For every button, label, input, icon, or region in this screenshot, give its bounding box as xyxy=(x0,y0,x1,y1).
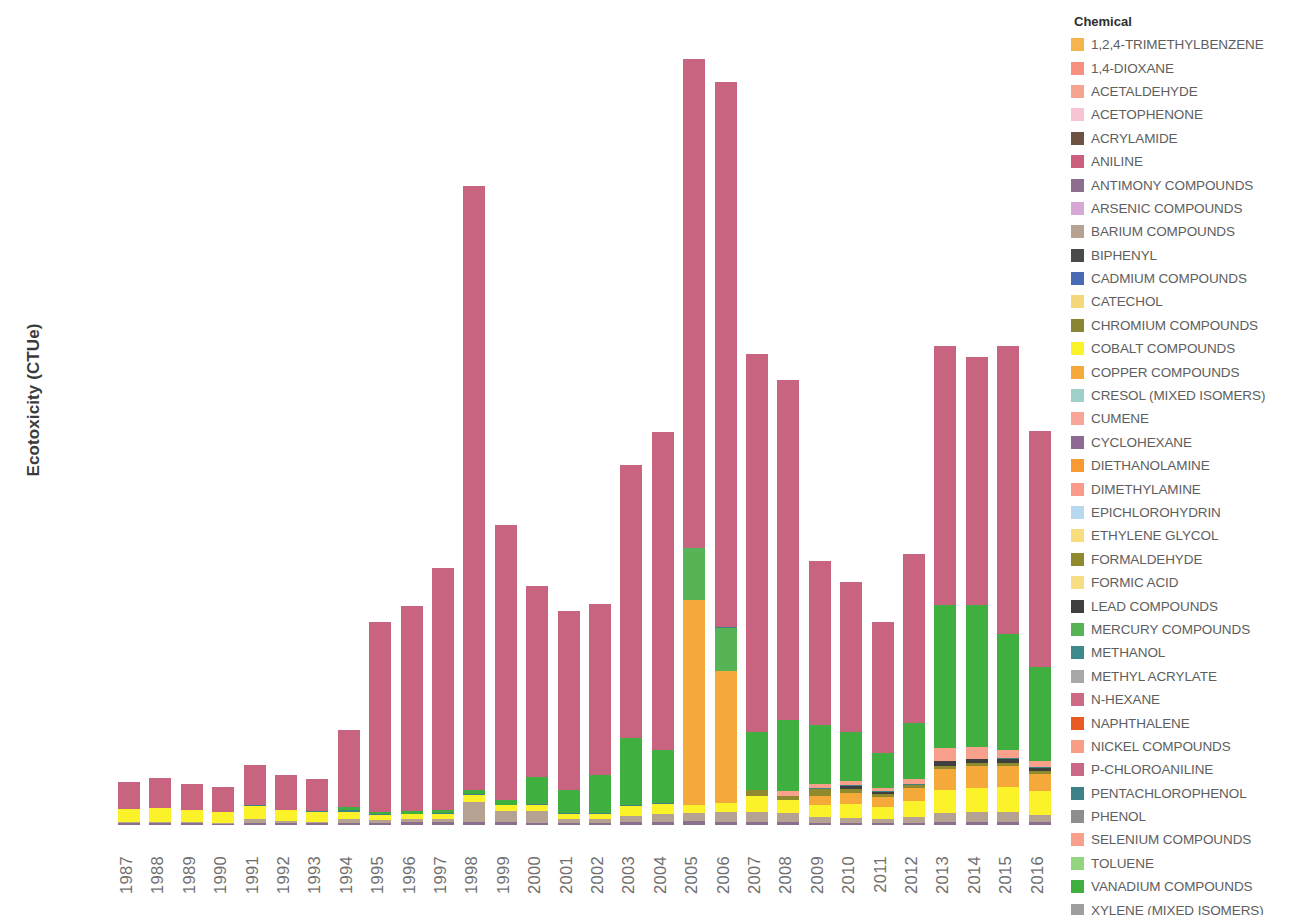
bar-segment[interactable] xyxy=(1029,791,1051,814)
bar-1991[interactable] xyxy=(244,765,266,825)
bar-segment[interactable] xyxy=(777,720,799,790)
bar-2012[interactable] xyxy=(903,554,925,825)
bar-2011[interactable] xyxy=(872,622,894,825)
bar-segment[interactable] xyxy=(589,775,611,813)
bar-segment[interactable] xyxy=(526,777,548,804)
legend-item[interactable]: ACETALDEHYDE xyxy=(1071,80,1304,103)
bar-segment[interactable] xyxy=(275,823,297,825)
bar-2008[interactable] xyxy=(777,380,799,825)
legend-item[interactable]: CUMENE xyxy=(1071,407,1304,430)
bar-segment[interactable] xyxy=(558,611,580,789)
legend-item[interactable]: ACETOPHENONE xyxy=(1071,103,1304,126)
bar-segment[interactable] xyxy=(683,821,705,825)
bar-segment[interactable] xyxy=(652,814,674,822)
bar-1992[interactable] xyxy=(275,775,297,825)
bar-segment[interactable] xyxy=(589,823,611,825)
bar-segment[interactable] xyxy=(683,548,705,599)
bar-segment[interactable] xyxy=(997,822,1019,825)
bar-segment[interactable] xyxy=(715,803,737,812)
bar-segment[interactable] xyxy=(809,789,831,797)
bar-2010[interactable] xyxy=(840,582,862,825)
bar-segment[interactable] xyxy=(809,561,831,725)
bar-segment[interactable] xyxy=(872,797,894,807)
bar-segment[interactable] xyxy=(1029,822,1051,825)
bar-segment[interactable] xyxy=(840,582,862,732)
bar-segment[interactable] xyxy=(809,796,831,805)
legend-item[interactable]: NAPHTHALENE xyxy=(1071,711,1304,734)
bar-segment[interactable] xyxy=(463,186,485,790)
legend-item[interactable]: METHYL ACRYLATE xyxy=(1071,665,1304,688)
legend-item[interactable]: CRESOL (MIXED ISOMERS) xyxy=(1071,384,1304,407)
legend-item[interactable]: N-HEXANE xyxy=(1071,688,1304,711)
bar-2009[interactable] xyxy=(809,561,831,825)
bar-segment[interactable] xyxy=(118,809,140,822)
bar-segment[interactable] xyxy=(620,806,642,816)
bar-segment[interactable] xyxy=(306,812,328,822)
bar-segment[interactable] xyxy=(840,823,862,825)
bar-segment[interactable] xyxy=(966,357,988,605)
bar-segment[interactable] xyxy=(212,812,234,822)
legend-item[interactable]: LEAD COMPOUNDS xyxy=(1071,594,1304,617)
legend-item[interactable]: SELENIUM COMPOUNDS xyxy=(1071,828,1304,851)
legend-item[interactable]: ARSENIC COMPOUNDS xyxy=(1071,197,1304,220)
bar-segment[interactable] xyxy=(306,823,328,825)
legend-item[interactable]: ACRYLAMIDE xyxy=(1071,127,1304,150)
bar-segment[interactable] xyxy=(118,782,140,810)
legend-item[interactable]: XYLENE (MIXED ISOMERS) xyxy=(1071,898,1304,915)
bar-2014[interactable] xyxy=(966,357,988,825)
bar-segment[interactable] xyxy=(338,730,360,807)
bar-1996[interactable] xyxy=(401,606,423,825)
bar-segment[interactable] xyxy=(620,465,642,738)
bar-segment[interactable] xyxy=(401,606,423,812)
legend-item[interactable]: VANADIUM COMPOUNDS xyxy=(1071,875,1304,898)
bar-segment[interactable] xyxy=(683,59,705,548)
bar-segment[interactable] xyxy=(526,586,548,778)
bar-segment[interactable] xyxy=(966,747,988,759)
legend-item[interactable]: NICKEL COMPOUNDS xyxy=(1071,735,1304,758)
bar-segment[interactable] xyxy=(997,787,1019,812)
bar-segment[interactable] xyxy=(872,753,894,788)
bar-2004[interactable] xyxy=(652,432,674,825)
bar-2000[interactable] xyxy=(526,586,548,825)
bar-segment[interactable] xyxy=(683,813,705,821)
bar-segment[interactable] xyxy=(809,725,831,784)
bar-segment[interactable] xyxy=(463,822,485,825)
bar-2003[interactable] xyxy=(620,465,642,825)
bar-segment[interactable] xyxy=(966,822,988,825)
bar-segment[interactable] xyxy=(181,823,203,825)
bar-segment[interactable] xyxy=(715,82,737,627)
bar-segment[interactable] xyxy=(715,822,737,826)
bar-segment[interactable] xyxy=(526,811,548,823)
bar-segment[interactable] xyxy=(181,784,203,810)
legend-item[interactable]: COPPER COMPOUNDS xyxy=(1071,360,1304,383)
bar-segment[interactable] xyxy=(934,790,956,813)
bar-1988[interactable] xyxy=(149,778,171,825)
bar-segment[interactable] xyxy=(934,769,956,790)
bar-segment[interactable] xyxy=(997,346,1019,634)
bar-segment[interactable] xyxy=(652,750,674,803)
bar-segment[interactable] xyxy=(558,790,580,813)
legend-item[interactable]: 1,4-DIOXANE xyxy=(1071,56,1304,79)
bar-2007[interactable] xyxy=(746,354,768,825)
legend-item[interactable]: CYCLOHEXANE xyxy=(1071,431,1304,454)
bar-1999[interactable] xyxy=(495,525,517,825)
bar-segment[interactable] xyxy=(526,823,548,825)
legend-item[interactable]: ANILINE xyxy=(1071,150,1304,173)
bar-segment[interactable] xyxy=(777,380,799,720)
bar-segment[interactable] xyxy=(872,807,894,819)
bar-1993[interactable] xyxy=(306,779,328,825)
bar-segment[interactable] xyxy=(997,812,1019,822)
legend-item[interactable]: ANTIMONY COMPOUNDS xyxy=(1071,173,1304,196)
bar-1989[interactable] xyxy=(181,784,203,825)
bar-segment[interactable] xyxy=(809,805,831,817)
legend-item[interactable]: CADMIUM COMPOUNDS xyxy=(1071,267,1304,290)
legend-item[interactable]: P-CHLOROANILINE xyxy=(1071,758,1304,781)
legend-item[interactable]: BARIUM COMPOUNDS xyxy=(1071,220,1304,243)
bar-segment[interactable] xyxy=(244,765,266,805)
bar-segment[interactable] xyxy=(338,823,360,825)
legend-item[interactable]: METHANOL xyxy=(1071,641,1304,664)
legend-item[interactable]: COBALT COMPOUNDS xyxy=(1071,337,1304,360)
legend-item[interactable]: DIETHANOLAMINE xyxy=(1071,454,1304,477)
bar-segment[interactable] xyxy=(275,775,297,810)
bar-segment[interactable] xyxy=(777,813,799,822)
